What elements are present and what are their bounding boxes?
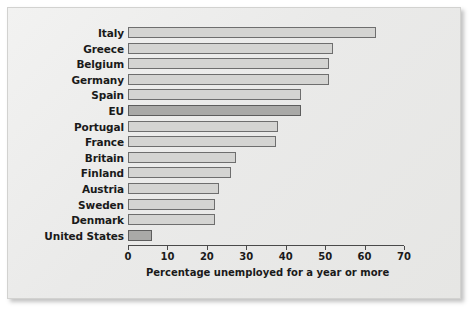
- x-axis-tick-label: 40: [274, 251, 298, 262]
- x-axis-tick: [246, 246, 247, 250]
- category-label: Greece: [8, 42, 124, 56]
- bar: [128, 74, 329, 85]
- plot-area: ItalyGreeceBelgiumGermanySpainEUPortugal…: [8, 8, 460, 298]
- bar-row: Spain: [8, 88, 404, 102]
- bar-row: Finland: [8, 166, 404, 180]
- bar: [128, 167, 231, 178]
- chart-panel: ItalyGreeceBelgiumGermanySpainEUPortugal…: [7, 7, 461, 299]
- x-axis-tick: [325, 246, 326, 250]
- bar-row: United States: [8, 229, 404, 243]
- x-axis-tick: [404, 246, 405, 250]
- category-label: Finland: [8, 166, 124, 180]
- x-axis-tick-label: 60: [353, 251, 377, 262]
- category-label: Britain: [8, 151, 124, 165]
- bar-row: Austria: [8, 182, 404, 196]
- bar-row: Denmark: [8, 213, 404, 227]
- x-axis-line: [128, 245, 404, 246]
- x-axis-tick-label: 30: [234, 251, 258, 262]
- x-axis-tick-label: 70: [392, 251, 416, 262]
- category-label: United States: [8, 229, 124, 243]
- bar-row: France: [8, 135, 404, 149]
- bar: [128, 214, 215, 225]
- chart-figure: ItalyGreeceBelgiumGermanySpainEUPortugal…: [0, 0, 471, 310]
- x-axis-tick-label: 20: [195, 251, 219, 262]
- bar-row: Italy: [8, 26, 404, 40]
- bar: [128, 43, 333, 54]
- x-axis-tick-label: 50: [313, 251, 337, 262]
- bar: [128, 183, 219, 194]
- category-label: France: [8, 135, 124, 149]
- bar-row: Portugal: [8, 120, 404, 134]
- category-label: Sweden: [8, 198, 124, 212]
- bar: [128, 230, 152, 241]
- category-label: Austria: [8, 182, 124, 196]
- bar: [128, 58, 329, 69]
- x-axis-tick: [167, 246, 168, 250]
- x-axis-title: Percentage unemployed for a year or more: [146, 267, 389, 278]
- bar-row: Germany: [8, 73, 404, 87]
- bar: [128, 152, 236, 163]
- bar-row: EU: [8, 104, 404, 118]
- x-axis-tick: [365, 246, 366, 250]
- x-axis-tick-label: 0: [116, 251, 140, 262]
- category-label: Germany: [8, 73, 124, 87]
- bar: [128, 136, 276, 147]
- x-axis-tick: [207, 246, 208, 250]
- bar-row: Greece: [8, 42, 404, 56]
- category-label: Portugal: [8, 120, 124, 134]
- bar-row: Britain: [8, 151, 404, 165]
- bar: [128, 27, 376, 38]
- x-axis-tick: [286, 246, 287, 250]
- x-axis-tick-label: 10: [155, 251, 179, 262]
- bar: [128, 105, 301, 116]
- x-axis-tick: [128, 246, 129, 250]
- category-label: EU: [8, 104, 124, 118]
- category-label: Italy: [8, 26, 124, 40]
- category-label: Spain: [8, 88, 124, 102]
- bar: [128, 121, 278, 132]
- bar: [128, 89, 301, 100]
- category-label: Denmark: [8, 213, 124, 227]
- category-label: Belgium: [8, 57, 124, 71]
- bar-row: Belgium: [8, 57, 404, 71]
- bar: [128, 199, 215, 210]
- bar-row: Sweden: [8, 198, 404, 212]
